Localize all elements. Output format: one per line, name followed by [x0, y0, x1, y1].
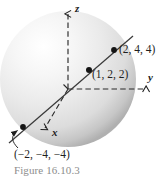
point-label-neg2-neg4-neg4: (−2, −4, −4): [14, 149, 70, 161]
y-axis-label: y: [148, 72, 153, 83]
figure-container: z y x (2, 4, 4) (1, 2, 2) (−2, −4, −4) F…: [0, 0, 161, 178]
point-label-1-2-2: (1, 2, 2): [92, 69, 128, 81]
point-label-2-4-4: (2, 4, 4): [119, 44, 155, 56]
point-marker-2-4-4: [111, 47, 117, 53]
point-marker-neg2-neg4-neg4: [20, 124, 26, 130]
figure-caption: Figure 16.10.3: [14, 164, 80, 176]
x-axis-label: x: [52, 127, 58, 138]
z-axis-label: z: [75, 3, 79, 14]
